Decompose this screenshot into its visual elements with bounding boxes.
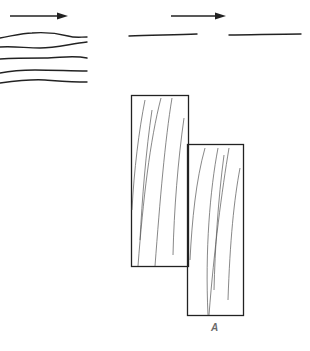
straight-segments-right (129, 34, 301, 36)
wavy-lines-left (0, 33, 87, 83)
diagram-svg (0, 0, 310, 351)
arrow-icon-left (10, 13, 68, 20)
figure-label: A (211, 322, 218, 333)
block-upper (132, 96, 189, 267)
arrow-icon-right (171, 13, 226, 20)
block-lower (188, 145, 244, 316)
diagram-canvas: A (0, 0, 310, 351)
